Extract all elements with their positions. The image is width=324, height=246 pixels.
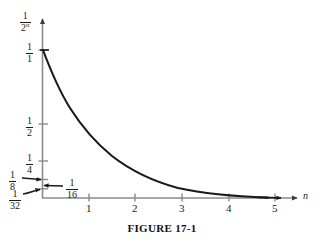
y-axis-title: 1 2n bbox=[20, 11, 31, 33]
x-tick-label-2: 2 bbox=[132, 203, 138, 214]
one-sixteenth-arrow bbox=[44, 185, 63, 186]
x-tick-label-4: 4 bbox=[226, 203, 232, 214]
y-axis-title-denominator: 2n bbox=[20, 23, 31, 34]
y-tick-label-1-4: 1 4 bbox=[26, 153, 33, 175]
x-axis-title: n bbox=[303, 191, 308, 201]
annotation-one-thirtysecond: 1 32 bbox=[9, 189, 21, 211]
curve-tail-arrow bbox=[258, 197, 281, 198]
y-tick-label-1-2: 1 2 bbox=[26, 116, 33, 138]
decay-curve bbox=[43, 50, 268, 198]
figure-caption: FIGURE 17-1 bbox=[0, 222, 324, 234]
y-tick-label-1-1: 1 1 bbox=[26, 42, 33, 64]
annotation-one-sixteenth: 1 16 bbox=[66, 178, 78, 200]
x-tick-label-5: 5 bbox=[272, 203, 278, 214]
figure-container: 1 2n 1 1 1 2 1 4 1 8 1 16 bbox=[0, 0, 324, 246]
x-tick-label-3: 3 bbox=[179, 203, 185, 214]
x-tick-label-1: 1 bbox=[86, 203, 92, 214]
one-thirtysecond-arrow bbox=[23, 189, 40, 194]
one-eighth-arrow bbox=[22, 178, 41, 180]
